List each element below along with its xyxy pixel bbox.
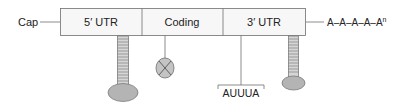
auuua-label: AUUUA	[223, 87, 260, 99]
polya-label: A–A–A–A–An	[327, 16, 387, 28]
auuua-element: AUUUA	[218, 36, 264, 100]
coding-label: Coding	[165, 16, 200, 28]
coding-marker	[156, 36, 174, 79]
mrna-diagram: Cap 5′ UTR Coding 3′ UTR A–A–A–A–An	[0, 0, 406, 107]
stem-loop-5utr	[108, 36, 138, 102]
cap-label: Cap	[18, 16, 38, 28]
utr5-label: 5′ UTR	[84, 16, 118, 28]
utr3-label: 3′ UTR	[247, 16, 281, 28]
stem-loop-3utr	[282, 36, 305, 90]
